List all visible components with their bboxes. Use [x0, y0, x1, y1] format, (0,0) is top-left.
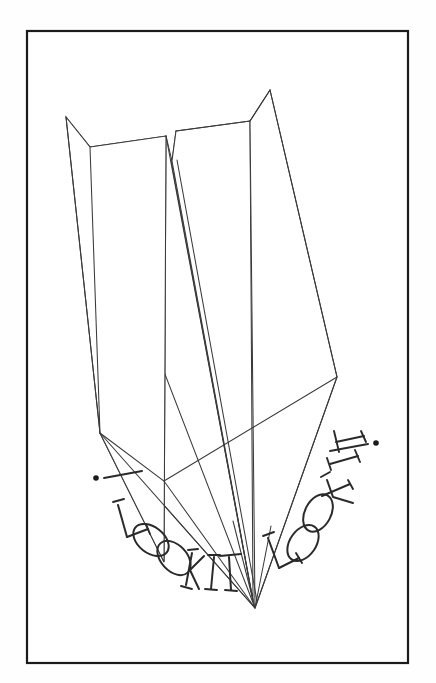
artboard: ! LOOKIT LOOKIT ! — [0, 0, 436, 683]
drawing-canvas — [0, 0, 436, 683]
